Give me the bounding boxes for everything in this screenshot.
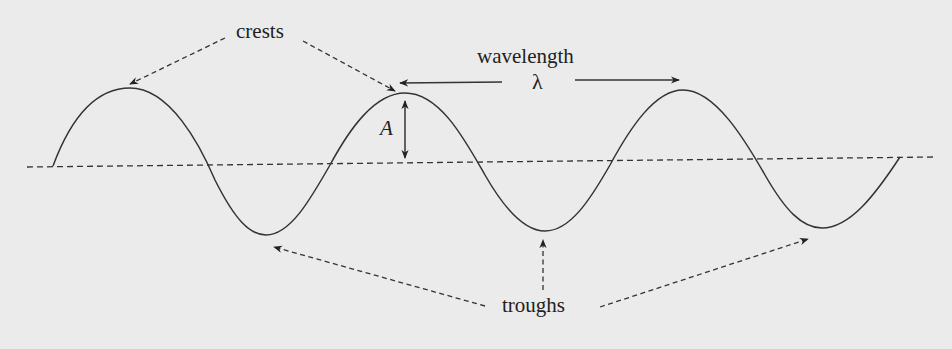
crest-arrow-right — [303, 41, 395, 91]
equilibrium-line — [27, 157, 935, 167]
wavelength-arrow-left — [400, 82, 502, 83]
amplitude-label: A — [380, 118, 393, 139]
lambda-symbol: λ — [532, 71, 543, 93]
wave-diagram: crests wavelength λ A troughs — [0, 0, 952, 349]
troughs-label: troughs — [502, 295, 565, 316]
crest-arrow-left — [130, 38, 225, 84]
trough-arrow-right — [600, 239, 808, 307]
trough-arrow-left — [274, 247, 485, 306]
wavelength-label: wavelength — [477, 46, 574, 67]
wave-diagram-graphics — [0, 0, 952, 349]
crests-label: crests — [236, 21, 284, 42]
wave-curve — [53, 88, 900, 235]
